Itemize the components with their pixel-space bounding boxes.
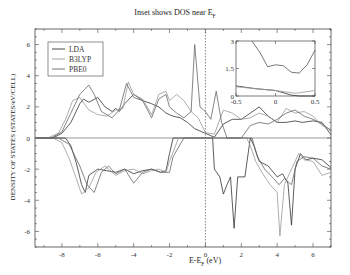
legend: LDAB3LYPPBE0 [48, 42, 103, 76]
svg-text:0.5: 0.5 [311, 98, 320, 106]
svg-text:0: 0 [231, 93, 235, 101]
svg-text:2: 2 [27, 103, 31, 111]
inset-plot: -0.500.501.53 [225, 38, 320, 107]
svg-text:-6: -6 [95, 251, 101, 259]
svg-text:-2: -2 [167, 251, 173, 259]
svg-text:6: 6 [27, 41, 31, 49]
svg-text:-6: -6 [24, 228, 30, 236]
svg-text:4: 4 [27, 72, 31, 80]
svg-text:1.5: 1.5 [225, 65, 234, 73]
dos-plot: -8-6-4-20246-6-4-20246 LDAB3LYPPBE0 -0.5… [0, 0, 350, 275]
svg-text:PBE0: PBE0 [69, 65, 87, 74]
svg-text:-8: -8 [59, 251, 65, 259]
svg-text:2: 2 [240, 251, 244, 259]
svg-text:-4: -4 [131, 251, 137, 259]
svg-text:4: 4 [275, 251, 279, 259]
svg-text:0: 0 [204, 251, 208, 259]
svg-text:0: 0 [27, 135, 31, 143]
svg-text:-2: -2 [24, 166, 30, 174]
svg-text:3: 3 [231, 38, 235, 46]
svg-text:6: 6 [311, 251, 315, 259]
svg-text:B3LYP: B3LYP [69, 55, 91, 64]
svg-text:0: 0 [274, 98, 278, 106]
svg-text:LDA: LDA [69, 45, 85, 54]
svg-text:-4: -4 [24, 197, 30, 205]
